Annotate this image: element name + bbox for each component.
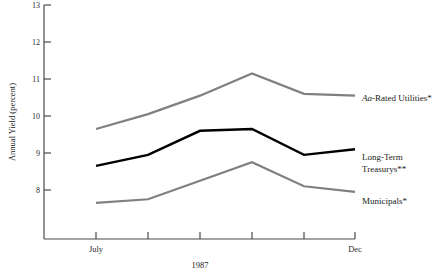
- series-line-long-term-treasurys: [96, 129, 355, 166]
- x-tick-label-july: July: [89, 244, 104, 254]
- x-axis-title: 1987: [192, 260, 209, 270]
- y-tick-label-8: 8: [36, 186, 40, 195]
- series-label-municipals: Municipals*: [362, 196, 407, 206]
- series-label-long-term-treasurys-line1: Long-Term: [362, 152, 403, 162]
- y-tick-label-9: 9: [36, 149, 40, 158]
- series-line-municipals: [96, 162, 355, 203]
- line-chart: 13 12 11 10 9 8 Annual Yield (percent) J…: [0, 0, 447, 275]
- chart-container: 13 12 11 10 9 8 Annual Yield (percent) J…: [0, 0, 447, 275]
- y-axis-title: Annual Yield (percent): [7, 83, 17, 161]
- y-tick-label-13: 13: [32, 1, 40, 10]
- x-axis-ticks: [96, 232, 355, 239]
- y-tick-label-12: 12: [32, 38, 40, 47]
- series-label-aa-rated-utilities: Aa-Rated Utilities*: [361, 93, 432, 103]
- series-line-aa-rated-utilities: [96, 73, 355, 129]
- x-tick-label-dec: Dec: [348, 244, 362, 254]
- y-axis-ticks: [44, 5, 51, 190]
- series-label-aa-rest: -Rated Utilities*: [372, 93, 432, 103]
- series-labels: Aa-Rated Utilities* Long-Term Treasurys*…: [361, 93, 432, 206]
- series-label-long-term-treasurys-line2: Treasurys**: [362, 164, 407, 174]
- y-axis-tick-labels: 13 12 11 10 9 8: [32, 1, 40, 195]
- y-tick-label-10: 10: [32, 112, 40, 121]
- series-label-aa-prefix: Aa: [361, 93, 372, 103]
- series-group: [96, 73, 355, 203]
- y-tick-label-11: 11: [32, 75, 40, 84]
